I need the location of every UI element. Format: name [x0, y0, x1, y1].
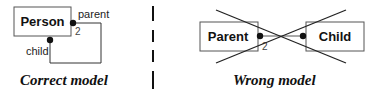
correct-model: Person parent child 2 Correct model: [14, 7, 109, 88]
wrong-model: Parent Child 2 Wrong model: [200, 10, 364, 88]
parent-end-dot: [257, 33, 263, 39]
role-parent-label: parent: [78, 8, 109, 20]
child-end-dot: [47, 37, 53, 43]
correct-model-caption: Correct model: [20, 72, 109, 88]
parent-class-label: Parent: [208, 29, 249, 44]
role-child-label: child: [26, 45, 49, 57]
multiplicity-label: 2: [75, 26, 81, 37]
diagram-canvas: Person parent child 2 Correct model Pare…: [0, 0, 376, 96]
child-end-dot: [300, 33, 306, 39]
child-class-label: Child: [319, 29, 352, 44]
person-class-label: Person: [20, 14, 64, 29]
wrong-model-caption: Wrong model: [233, 72, 316, 88]
